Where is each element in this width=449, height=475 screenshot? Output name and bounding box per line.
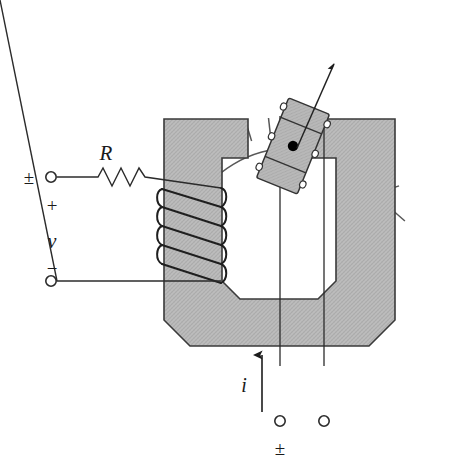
coil-hook-left xyxy=(157,226,162,245)
current-terminal-sign: ± xyxy=(275,438,285,459)
coil-hook-left xyxy=(157,189,162,207)
coil-hook-left xyxy=(157,245,162,264)
bottom-terminals[interactable] xyxy=(275,416,329,426)
coil-hook-left xyxy=(157,207,162,226)
plus-sign-label: + xyxy=(47,195,58,216)
voltage-terminal-positive[interactable] xyxy=(46,172,56,182)
meter-diagram-svg: R ± + v − i ± xyxy=(0,0,449,475)
current-terminal-a[interactable] xyxy=(275,416,285,426)
figure-root: R ± + v − i ± xyxy=(0,0,449,475)
voltage-label: v xyxy=(48,230,57,252)
resistor-label: R xyxy=(99,141,113,165)
current-label: i xyxy=(241,374,247,396)
minus-sign-label: − xyxy=(47,258,58,279)
current-terminal-b[interactable] xyxy=(319,416,329,426)
voltage-terminal-sign-top: ± xyxy=(24,167,34,188)
